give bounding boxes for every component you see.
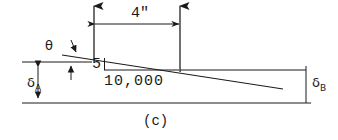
slope-run-label: 10,000 <box>104 74 164 89</box>
angle-theta-label: θ <box>45 39 53 52</box>
deflection-b-label: δB <box>312 76 326 93</box>
deflection-b-subscript: B <box>320 83 326 93</box>
figure-canvas <box>0 0 338 140</box>
angle-arrow-upper <box>71 40 76 52</box>
figure-caption: (c) <box>143 114 168 128</box>
deflection-a-symbol: δ <box>27 75 35 90</box>
span-dimension-label: 4" <box>131 6 149 21</box>
beam-deflection-figure: 4" 5 10,000 θ δA δB (c) <box>0 0 338 140</box>
deflection-a-label: δA <box>27 76 41 93</box>
deflection-b-symbol: δ <box>312 75 320 90</box>
slope-rise-label: 5 <box>92 57 101 72</box>
deflection-a-subscript: A <box>35 83 41 93</box>
